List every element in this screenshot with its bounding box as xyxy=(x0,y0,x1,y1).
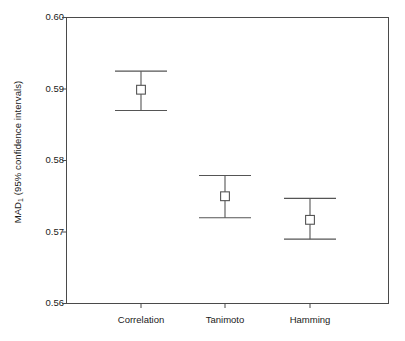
error-bar-chart: MAD1 (95% confidence intervals) 0.60 0.5… xyxy=(0,0,405,341)
data-point-marker-hamming xyxy=(306,215,315,224)
data-point-marker-correlation xyxy=(137,85,146,94)
plot-area xyxy=(0,0,405,341)
y-axis-ticks xyxy=(62,18,67,304)
data-point-marker-tanimoto xyxy=(221,192,230,201)
x-axis-ticks xyxy=(141,304,310,309)
plot-frame xyxy=(67,18,389,304)
